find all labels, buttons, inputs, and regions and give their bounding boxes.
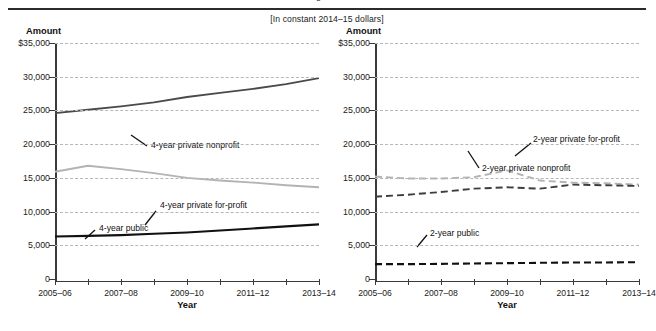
chart-panel-4-year: Amount 4-year private nonprofit 4-year p… [4,26,330,316]
gridline [55,178,319,179]
x-axis-tick [187,279,188,285]
x-axis-tick [606,279,607,285]
x-axis-tick-label: 2011–12 [237,288,270,298]
y-axis-title-right: Amount [346,26,381,36]
x-axis-tick [154,279,155,285]
y-axis-tick-label: 20,000 [23,139,50,149]
gridline [55,245,319,246]
y-axis-tick-label: 0 [365,274,370,284]
chart-panel-2-year: Amount 2-year private for-profit 2-year … [324,26,650,316]
x-axis-tick [286,279,287,285]
gridline [375,144,639,145]
gridline [375,212,639,213]
annotation-2-year-public: 2-year public [430,228,479,238]
x-axis-tick [639,279,640,285]
annotation-2-year-private-for-profit: 2-year private for-profit [533,134,620,144]
x-axis-tick [220,279,221,285]
y-axis-tick-label: 0 [45,274,50,284]
x-axis-tick-label: 2005–06 [38,288,71,298]
x-axis-tick [319,279,320,285]
x-axis-tick-label: 2009–10 [490,288,523,298]
gridline [375,77,639,78]
y-axis-tick-label: 5,000 [28,240,50,250]
gridline [375,43,639,44]
x-axis-tick [408,279,409,285]
leader-lines-left [55,43,319,279]
x-axis-tick-label: 2005–06 [358,288,391,298]
annotation-2-year-private-nonprofit: 2-year private nonprofit [482,163,570,173]
x-axis-title-left: Year [55,300,319,310]
y-axis-tick-label: 20,000 [343,139,370,149]
x-axis-title-right: Year [375,300,639,310]
x-axis-tick [55,279,56,285]
gridline [55,144,319,145]
y-axis-tick-label: 30,000 [343,72,370,82]
cropped-title-descender: g [316,0,330,4]
units-note: [In constant 2014–15 dollars] [0,14,654,24]
y-axis-tick-label: 15,000 [23,173,50,183]
plot-area-right: 2-year private for-profit 2-year private… [375,43,639,279]
top-rule [8,8,646,10]
y-axis-tick-label: 25,000 [343,105,370,115]
leader-lines-right [375,43,639,279]
x-axis-tick [253,279,254,285]
x-axis-tick [441,279,442,285]
y-axis-title-left: Amount [26,26,61,36]
y-axis-tick-label: 30,000 [23,72,50,82]
annotation-4-year-private-for-profit: 4-year private for-profit [160,200,247,210]
x-axis-tick-label: 2007–08 [424,288,457,298]
x-axis-tick [375,279,376,285]
x-axis-tick [88,279,89,285]
annotation-4-year-public: 4-year public [99,223,148,233]
y-axis-tick-label: 15,000 [343,173,370,183]
y-axis-tick-label: $35,000 [338,38,370,48]
y-axis-tick-label: 25,000 [23,105,50,115]
x-axis-tick [474,279,475,285]
x-axis-tick [573,279,574,285]
x-axis-tick [540,279,541,285]
gridline [55,110,319,111]
gridline [55,43,319,44]
gridline [375,245,639,246]
plot-area-left: 4-year private nonprofit 4-year private … [55,43,319,279]
gridline [375,110,639,111]
y-axis-tick-label: 10,000 [23,207,50,217]
x-axis-tick-label: 2009–10 [170,288,203,298]
x-axis-tick-label: 2011–12 [557,288,590,298]
x-axis-tick [121,279,122,285]
x-axis-tick-label: 2007–08 [104,288,137,298]
x-axis-tick-label: 2013–14 [622,288,655,298]
y-axis-tick-label: $35,000 [18,38,50,48]
y-axis-tick-label: 5,000 [348,240,370,250]
gridline [55,212,319,213]
x-axis-tick [507,279,508,285]
gridline [375,178,639,179]
y-axis-tick-label: 10,000 [343,207,370,217]
gridline [55,77,319,78]
